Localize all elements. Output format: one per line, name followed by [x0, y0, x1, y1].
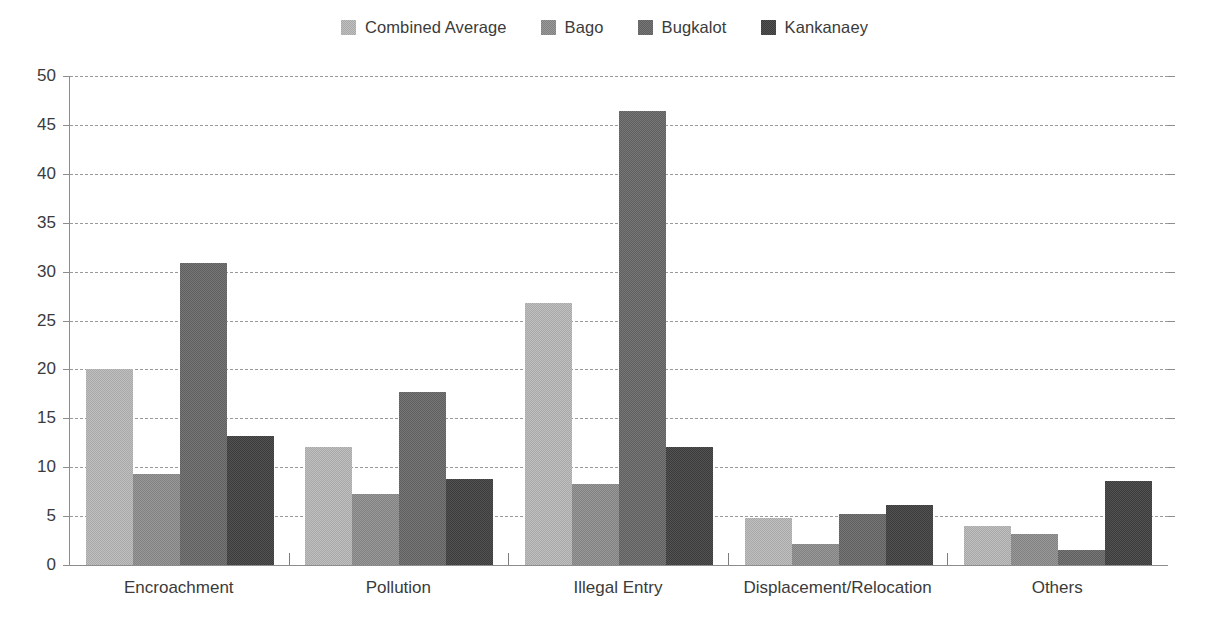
plot-area: 50454035302520151050 [69, 76, 1168, 566]
y-axis-label-35: 35 [37, 213, 56, 233]
legend-item-bago: Bago [541, 18, 604, 37]
y-tick-left-35 [63, 223, 70, 224]
y-axis-label-30: 30 [37, 262, 56, 282]
y-axis-label-45: 45 [37, 115, 56, 135]
bar-group-displacement-relocation [729, 76, 949, 565]
y-tick-right-45 [1168, 125, 1175, 126]
y-tick-right-5 [1168, 516, 1175, 517]
x-axis-label-displacement-relocation: Displacement/Relocation [728, 578, 948, 598]
bar-chart: Combined Average Bago Bugkalot Kankanaey… [0, 0, 1209, 638]
legend-swatch-bugkalot [638, 20, 653, 35]
bar-bago-displacement-relocation [792, 544, 839, 565]
legend-item-combined-average: Combined Average [341, 18, 507, 37]
y-tick-right-25 [1168, 321, 1175, 322]
x-axis-label-others: Others [947, 578, 1167, 598]
bar-kankanaey-displacement-relocation [886, 505, 933, 565]
y-tick-left-45 [63, 125, 70, 126]
bar-bugkalot-encroachment [180, 263, 227, 565]
bar-combined-average-encroachment [86, 369, 133, 565]
x-axis-label-pollution: Pollution [289, 578, 509, 598]
y-tick-left-15 [63, 418, 70, 419]
y-tick-right-10 [1168, 467, 1175, 468]
bar-kankanaey-others [1105, 481, 1152, 565]
bar-bugkalot-displacement-relocation [839, 514, 886, 565]
legend-label-bago: Bago [565, 18, 604, 37]
bar-bago-encroachment [133, 474, 180, 565]
x-axis-label-illegal-entry: Illegal Entry [508, 578, 728, 598]
y-axis-label-50: 50 [37, 66, 56, 86]
bar-bago-pollution [352, 494, 399, 565]
bar-group-pollution [290, 76, 510, 565]
bar-group-illegal-entry [509, 76, 729, 565]
y-tick-right-15 [1168, 418, 1175, 419]
y-tick-left-0 [63, 565, 70, 566]
x-axis-label-encroachment: Encroachment [69, 578, 289, 598]
y-axis-label-5: 5 [47, 506, 56, 526]
y-axis-label-25: 25 [37, 311, 56, 331]
y-tick-left-50 [63, 76, 70, 77]
x-axis-labels: EncroachmentPollutionIllegal EntryDispla… [69, 578, 1167, 598]
bar-combined-average-displacement-relocation [745, 518, 792, 565]
legend-label-combined-average: Combined Average [365, 18, 507, 37]
bar-combined-average-pollution [305, 447, 352, 565]
bar-bago-illegal-entry [572, 484, 619, 565]
bar-bugkalot-others [1058, 550, 1105, 565]
bar-combined-average-others [964, 526, 1011, 565]
y-axis-label-20: 20 [37, 359, 56, 379]
bar-group-others [948, 76, 1168, 565]
y-tick-right-40 [1168, 174, 1175, 175]
y-tick-right-30 [1168, 272, 1175, 273]
y-axis-label-40: 40 [37, 164, 56, 184]
bar-bugkalot-pollution [399, 392, 446, 565]
bar-bago-others [1011, 534, 1058, 565]
y-axis-label-10: 10 [37, 457, 56, 477]
y-tick-left-5 [63, 516, 70, 517]
y-tick-left-20 [63, 369, 70, 370]
bar-bugkalot-illegal-entry [619, 111, 666, 565]
y-tick-left-40 [63, 174, 70, 175]
legend-item-bugkalot: Bugkalot [638, 18, 727, 37]
y-tick-left-30 [63, 272, 70, 273]
bar-combined-average-illegal-entry [525, 303, 572, 565]
legend-swatch-bago [541, 20, 556, 35]
legend-label-bugkalot: Bugkalot [662, 18, 727, 37]
bar-kankanaey-illegal-entry [666, 447, 713, 565]
bar-kankanaey-encroachment [227, 436, 274, 565]
chart-legend: Combined Average Bago Bugkalot Kankanaey [0, 12, 1209, 42]
bar-groups [70, 76, 1168, 565]
legend-label-kankanaey: Kankanaey [785, 18, 868, 37]
legend-swatch-combined-average [341, 20, 356, 35]
y-tick-right-35 [1168, 223, 1175, 224]
y-axis-label-15: 15 [37, 408, 56, 428]
y-tick-left-25 [63, 321, 70, 322]
y-tick-left-10 [63, 467, 70, 468]
bar-group-encroachment [70, 76, 290, 565]
y-tick-right-20 [1168, 369, 1175, 370]
y-tick-right-50 [1168, 76, 1175, 77]
bar-kankanaey-pollution [446, 479, 493, 565]
legend-swatch-kankanaey [761, 20, 776, 35]
y-axis-label-0: 0 [47, 555, 56, 575]
legend-item-kankanaey: Kankanaey [761, 18, 868, 37]
